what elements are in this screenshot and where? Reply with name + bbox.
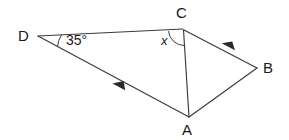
geometry-figure: D C B A 35° x: [0, 0, 289, 140]
vertex-label-A: A: [182, 122, 192, 137]
parallel-arrow-CB-icon: [222, 42, 235, 51]
angle-label-c-x: x: [161, 34, 168, 47]
angle-arc-D: [58, 35, 62, 47]
segment-AB: [189, 68, 257, 117]
angle-label-d-35deg: 35°: [66, 33, 87, 47]
vertex-label-D: D: [18, 28, 29, 43]
segment-CB: [184, 30, 257, 68]
vertex-label-C: C: [176, 5, 187, 20]
segment-CA: [184, 30, 190, 117]
angle-arc-C: [169, 32, 184, 46]
vertex-label-B: B: [263, 60, 273, 75]
parallel-arrow-DA-icon: [113, 81, 126, 90]
segment-DA: [38, 36, 189, 117]
figure-canvas: [0, 0, 289, 140]
